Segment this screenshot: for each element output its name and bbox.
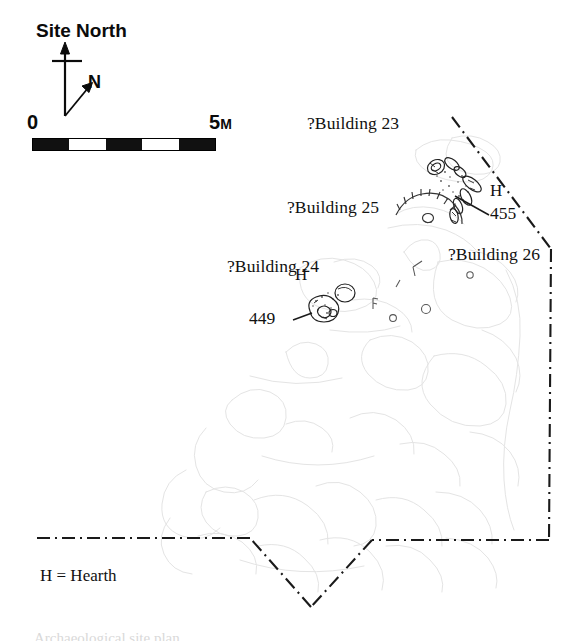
scale-bar-end-label: 5M [209,111,232,134]
scale-bar-segment [33,139,69,150]
legend-hearth-key: H = Hearth [40,566,117,586]
site-north-arrowhead [61,42,70,54]
scale-bar-segment [179,139,215,150]
true-north-label: N [88,72,101,93]
building-label-25: ?Building 25 [287,197,379,218]
building-label-26: ?Building 26 [448,244,540,265]
north-indicator-layer [0,0,586,641]
scale-bar-end-value: 5 [209,111,220,133]
feature-label-449: 449 [249,308,275,329]
figure-caption-sliver: Archaeological site plan [0,630,586,641]
scale-bar-start-label: 0 [27,111,38,134]
scale-bar-end-unit: M [220,116,232,132]
feature-label-455: 455 [490,203,516,224]
hearth-marker-449: H [295,265,307,285]
site-north-label: Site North [36,20,127,42]
scale-bar-segment [142,139,178,150]
scale-bar-segment [106,139,142,150]
site-plan-figure: Site North N 0 5M ?Building 23 ?Building… [0,0,586,641]
building-label-23: ?Building 23 [307,113,399,134]
scale-bar-segment [69,139,105,150]
scale-bar [32,138,216,151]
hearth-marker-455: H [490,181,502,201]
true-north-shaft [65,88,88,116]
